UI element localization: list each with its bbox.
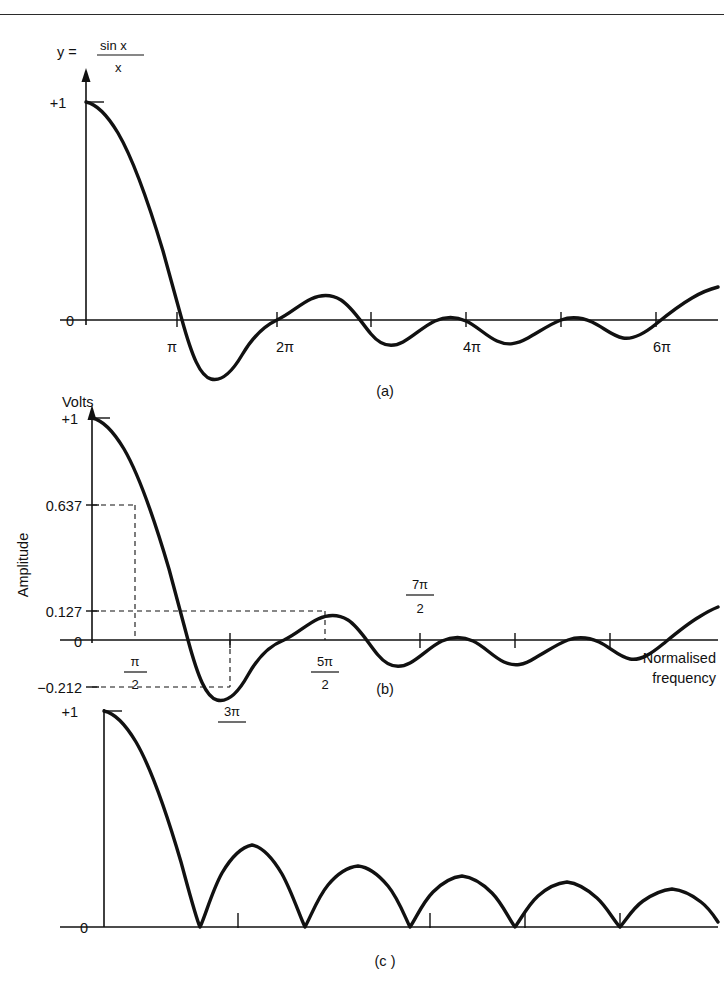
svg-text:7π: 7π xyxy=(412,577,428,592)
panel-a-xtick-6pi: 6π xyxy=(653,339,671,355)
panel-a-label-zero: 0 xyxy=(66,313,74,329)
panel-b-chart: Volts +1 0.637 0.127 0 −0.212 Amplitude … xyxy=(0,395,724,725)
svg-text:2: 2 xyxy=(131,677,138,692)
panel-b-label-0637: 0.637 xyxy=(46,498,82,514)
panel-b-xtick-pi-over-2: π 2 xyxy=(124,654,147,692)
panel-a-chart: y = sin x x +1 0 π 2π 4π 6π (a) xyxy=(0,0,724,400)
panel-b-guide-lines xyxy=(92,505,325,687)
panel-a-equation-label: y = sin x x xyxy=(57,38,144,75)
panel-b-xtick-7pi-over-2: 7π 2 xyxy=(406,577,434,616)
panel-a-y-axis xyxy=(82,68,91,325)
panel-c-caption: (c ) xyxy=(375,953,396,969)
panel-b-sinc-curve xyxy=(92,418,718,701)
panel-b-y-ticks xyxy=(86,418,110,687)
panel-a-xtick-4pi: 4π xyxy=(463,339,481,355)
panel-c-label-zero: 0 xyxy=(80,920,88,936)
svg-text:2: 2 xyxy=(321,677,328,692)
panel-b-label-0127: 0.127 xyxy=(46,604,82,620)
panel-c-chart: +1 0 (c ) xyxy=(0,695,724,995)
panel-b-x-axis-title-line2: frequency xyxy=(652,670,716,686)
panel-a-xtick-2pi: 2π xyxy=(276,339,294,355)
svg-text:5π: 5π xyxy=(317,654,333,669)
figure-page: y = sin x x +1 0 π 2π 4π 6π (a) xyxy=(0,0,724,1001)
svg-text:sin x: sin x xyxy=(100,38,127,53)
panel-b-label-volts: Volts xyxy=(62,395,93,410)
panel-b-xtick-5pi-over-2: 5π 2 xyxy=(311,654,339,692)
panel-c-rectified-sinc-curve xyxy=(104,711,718,927)
panel-a-sinc-curve xyxy=(86,102,718,380)
panel-b-x-axis-title-line1: Normalised xyxy=(643,650,716,666)
panel-b-label-neg0212: −0.212 xyxy=(37,680,82,696)
panel-b-y-axis xyxy=(88,405,97,643)
panel-c-label-plus-one: +1 xyxy=(61,704,78,720)
panel-b-label-plus-one: +1 xyxy=(61,411,78,427)
svg-text:π: π xyxy=(131,654,140,669)
panel-b-label-zero: 0 xyxy=(74,634,82,650)
svg-text:2: 2 xyxy=(416,601,423,616)
svg-text:y =: y = xyxy=(57,44,77,60)
panel-c-x-ticks xyxy=(238,913,620,928)
panel-b-axis-title-amplitude: Amplitude xyxy=(15,533,31,597)
panel-a-xtick-pi: π xyxy=(167,339,177,355)
panel-a-label-plus-one: +1 xyxy=(50,95,67,111)
svg-text:x: x xyxy=(115,60,122,75)
